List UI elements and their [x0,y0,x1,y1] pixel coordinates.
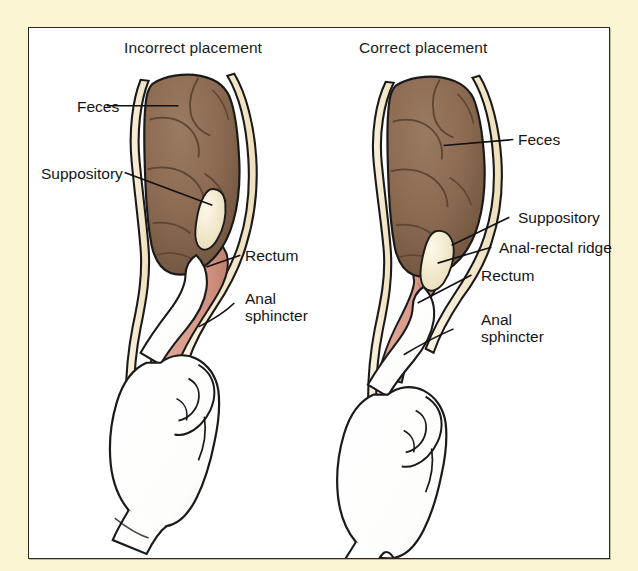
label-correct-anal-sphincter: Anal sphincter [481,311,544,345]
label-correct-suppository: Suppository [518,209,600,226]
label-correct-rectum: Rectum [481,267,534,284]
label-incorrect-feces: Feces [77,98,119,115]
heading-correct-placement: Correct placement [359,39,487,57]
feces-mass-incorrect [144,75,239,275]
label-incorrect-suppository: Suppository [41,165,123,182]
label-correct-anal-sphincter-line1: Anal [481,311,544,328]
gloved-hand-incorrect [110,255,219,554]
label-correct-anal-rectal-ridge: Anal-rectal ridge [499,239,612,256]
panel-incorrect-placement [107,74,257,554]
label-incorrect-anal-sphincter-line2: sphincter [245,307,308,324]
heading-incorrect-placement: Incorrect placement [124,39,262,57]
label-incorrect-rectum: Rectum [245,247,298,264]
label-incorrect-anal-sphincter: Anal sphincter [245,290,308,324]
gloved-hand-correct [337,287,446,558]
label-correct-feces: Feces [518,131,560,148]
label-correct-anal-sphincter-line2: sphincter [481,328,544,345]
illustration-frame: Incorrect placement Correct placement Fe… [28,27,610,559]
label-incorrect-anal-sphincter-line1: Anal [245,290,308,307]
